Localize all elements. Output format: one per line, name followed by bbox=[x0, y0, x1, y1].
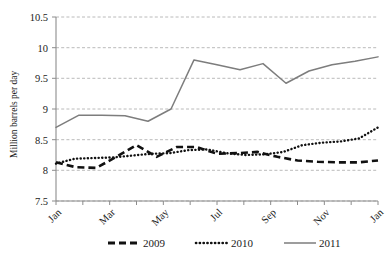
y-tick-label: 9.5 bbox=[35, 73, 48, 84]
series-line-2011 bbox=[56, 57, 378, 128]
legend-label-2011: 2011 bbox=[319, 237, 341, 249]
y-tick-label: 8.5 bbox=[35, 135, 48, 146]
x-tick-label: Jan bbox=[368, 206, 386, 224]
series-line-2009 bbox=[56, 145, 378, 168]
series-group bbox=[56, 57, 378, 168]
legend: 2009 2010 2011 bbox=[108, 237, 341, 249]
y-tick-label: 10 bbox=[38, 43, 49, 54]
legend-label-2009: 2009 bbox=[143, 237, 166, 249]
x-tick-labels: JanMarMayJulSepNovJan bbox=[46, 206, 386, 228]
x-tick-label: Nov bbox=[311, 206, 332, 227]
y-axis-title: Million barrels per day bbox=[9, 70, 19, 158]
x-tick-label: Jan bbox=[46, 206, 64, 224]
x-tick-label: May bbox=[149, 206, 171, 228]
y-tick-label: 9 bbox=[43, 104, 48, 115]
y-tick-labels: 10.5 10 9.5 9 8.5 8 7.5 bbox=[30, 12, 48, 207]
x-tick-marks bbox=[56, 201, 378, 205]
y-tick-label: 10.5 bbox=[30, 12, 48, 23]
line-chart: 10.5 10 9.5 9 8.5 8 7.5 JanMarMayJulSepN… bbox=[0, 0, 390, 259]
legend-label-2010: 2010 bbox=[231, 237, 254, 249]
chart-container: 10.5 10 9.5 9 8.5 8 7.5 JanMarMayJulSepN… bbox=[0, 0, 390, 259]
series-line-2010 bbox=[56, 127, 378, 163]
y-tick-label: 7.5 bbox=[35, 196, 48, 207]
x-tick-label: Sep bbox=[259, 207, 278, 226]
gridlines bbox=[56, 17, 378, 201]
y-tick-marks bbox=[52, 17, 56, 201]
x-tick-label: Mar bbox=[97, 206, 118, 227]
x-tick-label: Jul bbox=[208, 207, 225, 224]
y-tick-label: 8 bbox=[43, 165, 48, 176]
